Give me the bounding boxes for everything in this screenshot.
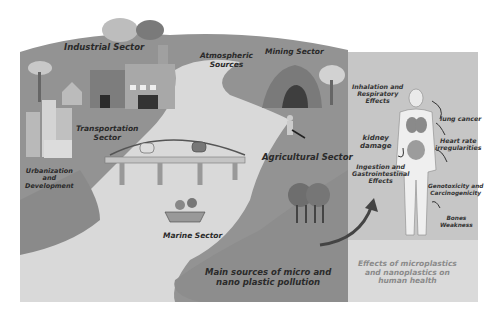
label-mining-sector: Mining Sector	[265, 48, 324, 57]
label-inhalation-effects: Inhalation and Respiratory Effects	[352, 83, 403, 105]
label-agricultural-sector: Agricultural Sector	[262, 153, 353, 163]
title-line: human health	[358, 277, 457, 286]
label-line: Respiratory	[352, 90, 403, 97]
right-panel-title: Effects of microplastics and nanoplastic…	[358, 260, 457, 286]
label-line: Carcinogenicity	[428, 190, 483, 197]
label-line: Ingestion and	[352, 163, 409, 170]
label-transportation-sector: Transportation Sector	[76, 125, 138, 142]
label-ingestion-effects: Ingestion and Gastrointestinal Effects	[352, 163, 409, 185]
label-line: Heart rate	[435, 137, 482, 144]
label-kidney-damage: kidney damage	[360, 134, 392, 150]
label-line: Sources	[200, 61, 253, 70]
label-urbanization: Urbanization and Development	[25, 168, 74, 190]
label-line: Effects	[352, 97, 403, 104]
label-line: kidney	[360, 134, 392, 142]
title-line: nano plastic pollution	[205, 278, 331, 288]
label-marine-sector: Marine Sector	[163, 232, 222, 241]
left-panel-title: Main sources of micro and nano plastic p…	[205, 268, 331, 288]
label-line: damage	[360, 142, 392, 150]
label-genotoxicity: Genotoxicity and Carcinogenicity	[428, 183, 483, 196]
label-line: Gastrointestinal	[352, 170, 409, 177]
label-bones-weakness: Bones Weakness	[440, 215, 473, 228]
label-lung-cancer: lung cancer	[440, 115, 481, 122]
label-line: Inhalation and	[352, 83, 403, 90]
label-line: Bones	[440, 215, 473, 222]
label-line: Development	[25, 183, 74, 190]
label-line: Weakness	[440, 222, 473, 229]
label-line: Sector	[76, 134, 138, 143]
label-line: irregularities	[435, 144, 482, 151]
label-line: Effects	[352, 177, 409, 184]
label-atmospheric-sources: Atmospheric Sources	[200, 52, 253, 69]
label-heart-rate: Heart rate irregularities	[435, 137, 482, 151]
label-industrial-sector: Industrial Sector	[64, 43, 144, 53]
label-line: Genotoxicity and	[428, 183, 483, 190]
